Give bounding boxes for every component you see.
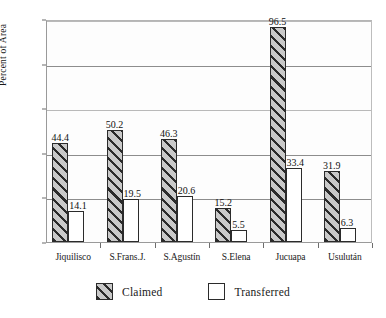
legend-item: Claimed	[96, 283, 162, 300]
bar-value-label: 31.9	[323, 161, 341, 171]
plot-area: 44.414.150.219.546.320.615.25.596.533.43…	[46, 20, 372, 243]
bar-transferred	[177, 196, 193, 242]
chart-legend: ClaimedTransferred	[0, 283, 386, 300]
legend-swatch-hatched-icon	[96, 283, 113, 300]
bar-transferred	[68, 211, 84, 242]
legend-label: Transferred	[234, 286, 289, 298]
legend-item: Transferred	[208, 283, 289, 300]
bar-value-label: 46.3	[160, 129, 178, 139]
x-tick-mark	[318, 243, 319, 248]
x-tick-mark	[263, 243, 264, 248]
x-tick-mark	[372, 243, 373, 248]
x-axis-label: Usulután	[328, 252, 362, 262]
x-tick-mark	[100, 243, 101, 248]
bar-transferred	[340, 228, 356, 242]
bar-chart: Percent of Area 020406080100 44.414.150.…	[0, 0, 386, 318]
x-tick-mark	[155, 243, 156, 248]
bar-value-label: 5.5	[232, 220, 245, 230]
bar-value-label: 15.2	[214, 198, 232, 208]
legend-label: Claimed	[122, 286, 162, 298]
bar-transferred	[286, 168, 302, 242]
bar-value-label: 44.4	[51, 133, 69, 143]
bar-value-label: 96.5	[269, 17, 287, 27]
bar-value-label: 50.2	[106, 120, 124, 130]
bar-transferred	[231, 230, 247, 242]
bar-transferred	[123, 199, 139, 242]
bar-claimed	[270, 27, 286, 242]
x-axis-label: Jucuapa	[276, 252, 306, 262]
x-axis-label: S.Agustín	[163, 252, 200, 262]
bar-value-label: 14.1	[69, 201, 87, 211]
bar-value-label: 33.4	[287, 158, 305, 168]
bar-claimed	[107, 130, 123, 242]
bar-value-label: 20.6	[178, 186, 196, 196]
bars-layer: 44.414.150.219.546.320.615.25.596.533.43…	[47, 21, 371, 242]
x-axis-label: S.Elena	[222, 252, 251, 262]
bar-claimed	[215, 208, 231, 242]
bar-claimed	[52, 143, 68, 242]
bar-claimed	[324, 171, 340, 242]
bar-value-label: 19.5	[124, 189, 142, 199]
bar-value-label: 6.3	[341, 218, 354, 228]
x-tick-mark	[209, 243, 210, 248]
x-axis-label: S.Frans.J.	[109, 252, 145, 262]
y-axis-title: Percent of Area	[0, 0, 8, 86]
bar-claimed	[161, 139, 177, 242]
legend-swatch-empty-icon	[208, 283, 225, 300]
x-axis-label: Jiquilisco	[55, 252, 90, 262]
